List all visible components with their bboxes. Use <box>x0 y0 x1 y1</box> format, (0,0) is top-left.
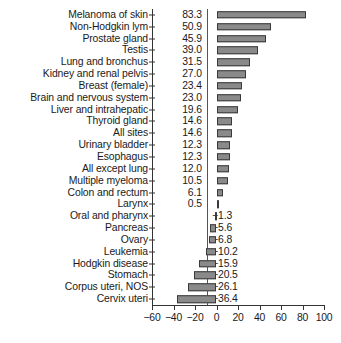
y-axis-tick <box>149 299 155 300</box>
bar-value-label: 14.6 <box>182 128 202 138</box>
x-axis-tick-label: −20 <box>186 313 203 323</box>
x-axis-tick-label: −40 <box>165 313 182 323</box>
y-axis-tick <box>149 74 155 75</box>
bar <box>217 47 259 55</box>
bar-row: Ovary−6.8 <box>0 234 341 246</box>
bar <box>217 59 251 67</box>
y-axis-tick <box>149 287 155 288</box>
x-axis-tick <box>324 305 325 310</box>
bar <box>217 35 266 43</box>
bar <box>188 283 216 291</box>
bar-row: Hodgkin disease−15.9 <box>0 258 341 270</box>
y-axis-tick <box>149 180 155 181</box>
bar-row: Multiple myeloma10.5 <box>0 175 341 187</box>
bar-row: Non-Hodgkin lym50.9 <box>0 21 341 33</box>
x-axis-tick <box>303 305 304 310</box>
category-label: Esophagus <box>97 152 148 162</box>
x-axis-tick <box>195 305 196 310</box>
category-label: Melanoma of skin <box>68 10 148 20</box>
bar <box>217 177 228 185</box>
y-axis-tick <box>149 239 155 240</box>
bar <box>217 141 230 149</box>
bar-value-label: 0.5 <box>188 199 202 209</box>
category-label: Thyroid gland <box>86 116 148 126</box>
bar <box>209 236 216 244</box>
bar-row: Pancreas−5.6 <box>0 222 341 234</box>
category-label: Ovary <box>121 235 148 245</box>
bar-value-label: 83.3 <box>182 10 202 20</box>
bar-row: All except lung12.0 <box>0 163 341 175</box>
bar-row: Larynx0.5 <box>0 198 341 210</box>
bar-row: Melanoma of skin83.3 <box>0 9 341 21</box>
category-label: Pancreas <box>105 223 148 233</box>
category-label: Non-Hodgkin lym <box>70 22 148 32</box>
x-axis-tick <box>152 305 153 310</box>
bar-row: Leukemia−10.2 <box>0 246 341 258</box>
bar-chart: Melanoma of skin83.3Non-Hodgkin lym50.9P… <box>0 0 341 343</box>
category-label: Liver and intrahepatic <box>51 104 148 114</box>
bar-row: Kidney and renal pelvis27.0 <box>0 68 341 80</box>
category-label: Colon and rectum <box>68 187 148 197</box>
bar <box>217 153 230 161</box>
bar-row: Brain and nervous system23.0 <box>0 92 341 104</box>
x-axis-tick <box>174 305 175 310</box>
bar-value-label: 50.9 <box>182 22 202 32</box>
y-axis-tick <box>149 50 155 51</box>
x-axis-tick <box>281 305 282 310</box>
bar <box>199 260 216 268</box>
y-axis-tick <box>149 145 155 146</box>
bar-row: All sites14.6 <box>0 127 341 139</box>
bar <box>177 295 216 303</box>
y-axis-tick <box>149 156 155 157</box>
bar <box>217 130 233 138</box>
bar-value-label: 31.5 <box>182 57 202 67</box>
bar-value-label: 23.0 <box>182 93 202 103</box>
category-label: Multiple myeloma <box>69 175 148 185</box>
y-axis-tick <box>149 263 155 264</box>
category-label: Prostate gland <box>82 33 148 43</box>
bar-value-label: 10.5 <box>182 175 202 185</box>
category-label: All sites <box>113 128 148 138</box>
bar-row: Liver and intrahepatic19.6 <box>0 104 341 116</box>
bar-row: Corpus uteri, NOS−26.1 <box>0 281 341 293</box>
bar <box>217 118 233 126</box>
bar <box>217 11 307 19</box>
y-axis-tick <box>149 97 155 98</box>
y-axis-tick <box>149 275 155 276</box>
x-axis-tick-label: 60 <box>275 313 286 323</box>
x-axis-tick-label: 80 <box>297 313 308 323</box>
y-axis-tick <box>149 133 155 134</box>
bar-value-label: 27.0 <box>182 69 202 79</box>
category-label: Stomach <box>108 270 148 280</box>
bar-row: Prostate gland45.9 <box>0 33 341 45</box>
x-axis-tick <box>238 305 239 310</box>
bar <box>217 70 246 78</box>
x-axis-tick-label: 20 <box>232 313 243 323</box>
y-axis-tick <box>149 85 155 86</box>
bar-value-label: 12.3 <box>182 152 202 162</box>
bar-value-label: 6.1 <box>188 187 202 197</box>
bar-value-label: 14.6 <box>182 116 202 126</box>
bar <box>217 165 230 173</box>
bar-row: Stomach−20.5 <box>0 269 341 281</box>
bar-value-label: 39.0 <box>182 45 202 55</box>
category-label: Breast (female) <box>78 81 148 91</box>
bar-row: Testis39.0 <box>0 45 341 57</box>
category-label: Brain and nervous system <box>30 93 148 103</box>
y-axis-tick <box>149 204 155 205</box>
y-axis-tick <box>149 216 155 217</box>
bar <box>210 224 216 232</box>
category-label: Oral and pharynx <box>70 211 148 221</box>
x-axis-tick <box>217 305 218 310</box>
category-label: Corpus uteri, NOS <box>65 282 148 292</box>
bar-row: Cervix uteri−36.4 <box>0 293 341 305</box>
y-axis-tick <box>149 62 155 63</box>
y-axis-tick <box>149 14 155 15</box>
category-label: All except lung <box>82 164 148 174</box>
category-label: Kidney and renal pelvis <box>43 69 148 79</box>
y-axis-tick <box>149 38 155 39</box>
bar <box>217 94 242 102</box>
bar-value-label: 12.3 <box>182 140 202 150</box>
category-label: Urinary bladder <box>78 140 148 150</box>
bar <box>215 212 217 220</box>
